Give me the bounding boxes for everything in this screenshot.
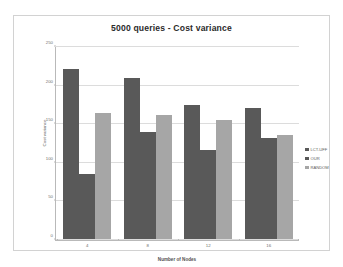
plot-area-wrapper: 050100150200250 481216 <box>55 47 299 241</box>
legend-item[interactable]: RANDOM <box>305 165 329 170</box>
bar <box>95 113 111 239</box>
bar-groups: 481216 <box>57 47 299 239</box>
bar <box>261 138 277 239</box>
plot-area: 050100150200250 481216 <box>55 47 299 241</box>
bar <box>245 108 261 239</box>
y-tick-label: 50 <box>48 194 53 199</box>
x-tick-label: 4 <box>86 243 88 248</box>
bar <box>216 120 232 239</box>
bar <box>140 132 156 239</box>
y-tick-mark <box>54 123 56 124</box>
chart-title: 5000 queries - Cost variance <box>14 23 329 33</box>
bar <box>184 105 200 239</box>
bar-group: 12 <box>178 47 239 239</box>
x-tick-label: 16 <box>266 243 271 248</box>
x-tick-mark <box>178 239 179 241</box>
bar <box>79 174 95 239</box>
x-axis-title: Number of Nodes <box>55 257 299 262</box>
legend-item[interactable]: LCT-UFF <box>305 147 329 152</box>
y-tick-label: 100 <box>46 155 53 160</box>
legend-swatch-icon <box>305 166 309 170</box>
x-tick-mark <box>57 239 58 241</box>
bar <box>277 135 293 239</box>
y-tick-label: 150 <box>46 117 53 122</box>
y-tick-mark <box>54 46 56 47</box>
legend-label: LCT-UFF <box>311 147 328 152</box>
y-tick-label: 200 <box>46 78 53 83</box>
y-tick-mark <box>54 161 56 162</box>
chart-container: 5000 queries - Cost variance Cost varian… <box>13 15 330 251</box>
x-tick-mark <box>298 239 299 241</box>
legend-swatch-icon <box>305 148 309 152</box>
x-tick-mark <box>239 239 240 241</box>
bar-group: 4 <box>57 47 118 239</box>
y-tick-mark <box>54 84 56 85</box>
legend-item[interactable]: OUR <box>305 156 329 161</box>
bar <box>200 150 216 239</box>
y-axis-title: Cost variance <box>42 120 47 147</box>
legend-swatch-icon <box>305 157 309 161</box>
chart-legend: LCT-UFFOURRANDOM <box>305 147 329 170</box>
bar-group: 8 <box>118 47 179 239</box>
legend-label: OUR <box>311 156 320 161</box>
y-tick-label: 0 <box>51 233 53 238</box>
bar-group: 16 <box>239 47 300 239</box>
x-tick-mark <box>118 239 119 241</box>
y-tick-label: 250 <box>46 40 53 45</box>
bar <box>63 69 79 239</box>
x-tick-label: 8 <box>147 243 149 248</box>
legend-label: RANDOM <box>311 165 329 170</box>
y-tick-mark <box>54 200 56 201</box>
y-tick-mark <box>54 239 56 240</box>
bar <box>156 115 172 239</box>
bar <box>124 78 140 239</box>
x-tick-label: 12 <box>206 243 211 248</box>
